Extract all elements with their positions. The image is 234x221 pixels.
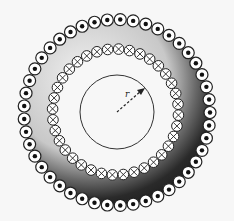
dot-conductor bbox=[36, 161, 48, 173]
dot-conductor bbox=[152, 190, 164, 202]
dot-conductor bbox=[173, 37, 185, 49]
dot-conductor bbox=[190, 156, 202, 168]
dot-conductor bbox=[163, 184, 175, 196]
dot-conductor bbox=[36, 52, 48, 64]
cross-conductor bbox=[76, 160, 87, 171]
dot-conductor bbox=[24, 138, 36, 150]
dot-conductor bbox=[89, 16, 101, 28]
cross-conductor bbox=[47, 104, 58, 115]
cross-conductor bbox=[118, 169, 129, 180]
cross-conductor bbox=[163, 141, 174, 152]
dot-conductor bbox=[182, 47, 194, 59]
coaxial-cross-section: r bbox=[0, 0, 234, 221]
dot-conductor bbox=[76, 20, 88, 32]
cross-conductor bbox=[81, 51, 92, 62]
dot-conductor bbox=[190, 57, 202, 69]
dot-conductor bbox=[101, 199, 113, 211]
dot-conductor bbox=[29, 150, 41, 162]
cross-conductor bbox=[60, 145, 71, 156]
cross-conductor bbox=[135, 49, 146, 60]
cross-conductor bbox=[107, 170, 118, 181]
dot-conductor bbox=[196, 144, 208, 156]
diagram: r bbox=[0, 0, 234, 221]
cross-conductor bbox=[144, 54, 155, 65]
dot-conductor bbox=[140, 18, 152, 30]
cross-conductor bbox=[96, 168, 107, 179]
dot-conductor bbox=[182, 166, 194, 178]
dot-conductor bbox=[200, 132, 212, 144]
cross-conductor bbox=[86, 165, 97, 176]
dot-conductor bbox=[173, 176, 185, 188]
cross-conductor bbox=[172, 121, 183, 132]
cross-conductor bbox=[160, 69, 171, 80]
dot-conductor bbox=[163, 29, 175, 41]
cross-conductor bbox=[57, 73, 68, 84]
dot-conductor bbox=[44, 42, 56, 54]
cross-conductor bbox=[173, 99, 184, 110]
dot-conductor bbox=[54, 180, 66, 192]
dot-conductor bbox=[29, 63, 41, 75]
dot-conductor bbox=[76, 193, 88, 205]
dot-conductor bbox=[18, 100, 30, 112]
cross-conductor bbox=[113, 44, 124, 55]
cross-conductor bbox=[49, 93, 60, 104]
cross-conductor bbox=[166, 78, 177, 89]
cross-conductor bbox=[129, 167, 140, 178]
dot-conductor bbox=[101, 14, 113, 26]
dot-conductor bbox=[114, 199, 126, 211]
dot-conductor bbox=[204, 107, 216, 119]
dot-conductor bbox=[127, 15, 139, 27]
dot-conductor bbox=[65, 187, 77, 199]
dot-conductor bbox=[44, 171, 56, 183]
cross-conductor bbox=[148, 157, 159, 168]
dot-conductor bbox=[152, 23, 164, 35]
field-band bbox=[0, 0, 234, 221]
cross-conductor bbox=[139, 163, 150, 174]
dot-conductor bbox=[203, 94, 215, 106]
cross-conductor bbox=[170, 88, 181, 99]
dot-conductor bbox=[20, 87, 32, 99]
cross-conductor bbox=[72, 56, 83, 67]
cross-conductor bbox=[54, 135, 65, 146]
cross-conductor bbox=[168, 131, 179, 142]
dot-conductor bbox=[203, 119, 215, 131]
dot-conductor bbox=[89, 197, 101, 209]
dot-conductor bbox=[114, 14, 126, 26]
dot-conductor bbox=[54, 33, 66, 45]
dot-conductor bbox=[20, 126, 32, 138]
dot-conductor bbox=[18, 113, 30, 125]
cross-conductor bbox=[50, 125, 61, 136]
cross-conductor bbox=[124, 45, 135, 56]
dot-conductor bbox=[200, 81, 212, 93]
dot-conductor bbox=[24, 75, 36, 87]
cross-conductor bbox=[173, 110, 184, 121]
dot-conductor bbox=[196, 69, 208, 81]
dot-conductor bbox=[127, 198, 139, 210]
dot-conductor bbox=[140, 195, 152, 207]
radius-label: r bbox=[125, 89, 130, 99]
cross-conductor bbox=[92, 46, 103, 57]
cross-conductor bbox=[102, 44, 113, 55]
dot-conductor bbox=[65, 26, 77, 38]
cross-conductor bbox=[48, 115, 59, 126]
cross-conductor bbox=[52, 82, 63, 93]
